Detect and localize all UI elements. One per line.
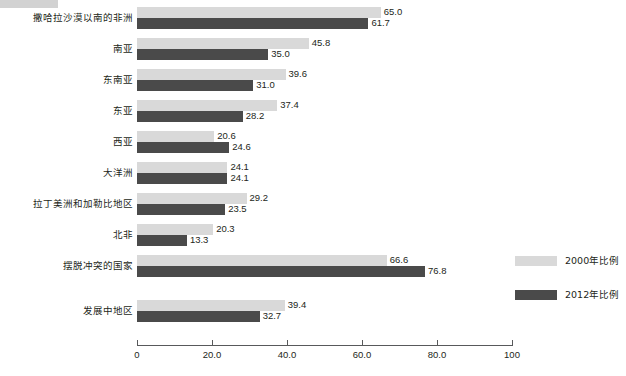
bar-row: 32.7: [137, 311, 622, 322]
bar-row: 37.4: [137, 100, 622, 111]
x-axis-tick-label: 100: [504, 349, 520, 361]
bar-group: 南亚45.835.0: [0, 38, 626, 60]
bar-value-label: 35.0: [268, 48, 290, 60]
bar-2012: [137, 235, 187, 246]
bar-value-label: 31.0: [253, 79, 275, 91]
category-label: 拉丁美洲和加勒比地区: [0, 198, 133, 209]
bar-value-label: 13.3: [187, 234, 209, 246]
bar-value-label: 29.2: [247, 192, 269, 204]
bar-2000: [137, 162, 227, 173]
category-label: 撒哈拉沙漠以南的非洲: [0, 12, 133, 23]
bar-row: 20.6: [137, 131, 622, 142]
bar-2012: [137, 204, 225, 215]
x-axis-line: [137, 345, 512, 346]
category-label: 南亚: [0, 43, 133, 54]
bar-2012: [137, 49, 268, 60]
bar-row: 76.8: [137, 266, 622, 277]
bar-chart-figure: 撒哈拉沙漠以南的非洲65.061.7南亚45.835.0东南亚39.631.0东…: [0, 0, 626, 376]
legend-swatch-2012: [515, 290, 557, 300]
bar-value-label: 24.6: [229, 141, 251, 153]
bar-group: 拉丁美洲和加勒比地区29.223.5: [0, 193, 626, 215]
bar-group: 东南亚39.631.0: [0, 69, 626, 91]
bar-value-label: 61.7: [368, 17, 390, 29]
bar-value-label: 24.1: [227, 172, 249, 184]
category-label: 摆脱冲突的国家: [0, 260, 133, 271]
x-axis-tick-label: 60.0: [353, 349, 372, 361]
bar-row: 24.1: [137, 173, 622, 184]
x-axis-tick: [362, 340, 363, 346]
legend-item[interactable]: 2012年比例: [515, 289, 626, 301]
bar-row: 61.7: [137, 18, 622, 29]
bar-group: 北非20.313.3: [0, 224, 626, 246]
bar-row: 29.2: [137, 193, 622, 204]
bar-row: 39.6: [137, 69, 622, 80]
category-label: 北非: [0, 229, 133, 240]
bar-2012: [137, 266, 425, 277]
bar-value-label: 32.7: [260, 310, 282, 322]
category-label: 发展中地区: [0, 305, 133, 316]
bar-row: 35.0: [137, 49, 622, 60]
bar-group: 发展中地区39.432.7: [0, 300, 626, 322]
bar-value-label: 28.2: [243, 110, 265, 122]
x-axis-tick: [212, 340, 213, 346]
bar-row: 39.4: [137, 300, 622, 311]
bar-2012: [137, 173, 227, 184]
bar-2000: [137, 255, 387, 266]
x-axis-tick-label: 0: [134, 349, 139, 361]
bar-value-label: 39.6: [286, 68, 308, 80]
bar-group: 西亚20.624.6: [0, 131, 626, 153]
bar-row: 45.8: [137, 38, 622, 49]
bar-value-label: 45.8: [309, 37, 331, 49]
bar-row: 23.5: [137, 204, 622, 215]
bar-value-label: 23.5: [225, 203, 247, 215]
x-axis-tick-label: 20.0: [203, 349, 222, 361]
bar-row: 28.2: [137, 111, 622, 122]
bar-2012: [137, 80, 253, 91]
category-label: 东亚: [0, 105, 133, 116]
legend-item[interactable]: 2000年比例: [515, 255, 626, 267]
bar-row: 24.6: [137, 142, 622, 153]
legend-label: 2012年比例: [565, 289, 619, 301]
bar-row: 20.3: [137, 224, 622, 235]
category-label: 西亚: [0, 136, 133, 147]
bar-value-label: 37.4: [277, 99, 299, 111]
bar-row: 31.0: [137, 80, 622, 91]
category-label: 东南亚: [0, 74, 133, 85]
x-axis-tick-label: 40.0: [278, 349, 297, 361]
bar-2012: [137, 311, 260, 322]
bar-2012: [137, 111, 243, 122]
bar-value-label: 76.8: [425, 265, 447, 277]
bar-group: 撒哈拉沙漠以南的非洲65.061.7: [0, 7, 626, 29]
bar-2012: [137, 18, 368, 29]
bar-row: 24.1: [137, 162, 622, 173]
x-axis-tick-label: 80.0: [428, 349, 447, 361]
bar-value-label: 20.3: [213, 223, 235, 235]
bar-row: 13.3: [137, 235, 622, 246]
bar-group: 大洋洲24.124.1: [0, 162, 626, 184]
x-axis-tick: [287, 340, 288, 346]
x-axis-tick: [512, 340, 513, 346]
bar-value-label: 66.6: [387, 254, 409, 266]
bar-2012: [137, 142, 229, 153]
legend-swatch-2000: [515, 256, 557, 266]
bar-value-label: 39.4: [285, 299, 307, 311]
bar-2000: [137, 7, 381, 18]
x-axis-tick: [137, 340, 138, 346]
legend-label: 2000年比例: [565, 255, 619, 267]
x-axis-tick: [437, 340, 438, 346]
category-label: 大洋洲: [0, 167, 133, 178]
bar-group: 东亚37.428.2: [0, 100, 626, 122]
bar-2000: [137, 131, 214, 142]
